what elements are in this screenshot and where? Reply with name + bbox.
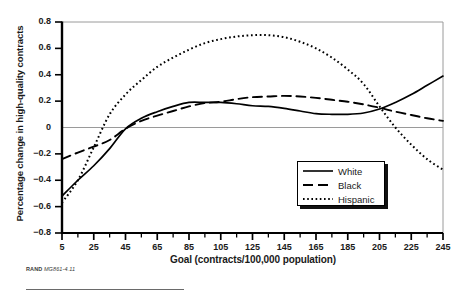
x-tick-label: 25 (79, 242, 109, 252)
legend-item-white: White (302, 164, 384, 178)
x-tick-label: 245 (428, 242, 458, 252)
y-tick-label: 0.6 (21, 42, 51, 52)
legend-swatch-solid (302, 166, 334, 176)
y-tick-label: 0 (21, 122, 51, 132)
y-tick-label: −0.4 (21, 174, 51, 184)
x-tick-label: 145 (269, 242, 299, 252)
x-tick-label: 65 (142, 242, 172, 252)
y-tick-label: 0.2 (21, 95, 51, 105)
series-line-white (62, 76, 443, 196)
y-tick-label: −0.8 (21, 227, 51, 237)
x-tick-label: 165 (301, 242, 331, 252)
x-tick-label: 105 (206, 242, 236, 252)
chart-legend: White Black Hispanic (297, 161, 385, 206)
legend-item-black: Black (302, 178, 384, 192)
legend-label-black: Black (338, 180, 361, 191)
legend-label-white: White (338, 166, 362, 177)
source-note-id: MG861-4.11 (44, 266, 75, 272)
legend-item-hispanic: Hispanic (302, 192, 384, 206)
footer-divider (26, 289, 184, 290)
series-line-hispanic (62, 35, 443, 203)
y-tick-label: −0.2 (21, 148, 51, 158)
y-tick-label: −0.6 (21, 201, 51, 211)
x-tick-label: 125 (238, 242, 268, 252)
figure-container: Percentage change in high-quality contra… (0, 0, 461, 298)
y-tick-label: 0.4 (21, 69, 51, 79)
legend-label-hispanic: Hispanic (338, 194, 374, 205)
legend-swatch-dashed (302, 180, 334, 190)
source-note: RAND MG861-4.11 (26, 266, 75, 272)
legend-swatch-dotted (302, 194, 334, 204)
x-tick-label: 85 (174, 242, 204, 252)
x-tick-label: 185 (333, 242, 363, 252)
x-tick-label: 45 (111, 242, 141, 252)
y-tick-label: 0.8 (21, 16, 51, 26)
x-tick-label: 205 (365, 242, 395, 252)
x-axis-title: Goal (contracts/100,000 population) (62, 254, 444, 265)
x-tick-label: 225 (396, 242, 426, 252)
x-tick-label: 5 (47, 242, 77, 252)
source-note-prefix: RAND (26, 266, 42, 272)
